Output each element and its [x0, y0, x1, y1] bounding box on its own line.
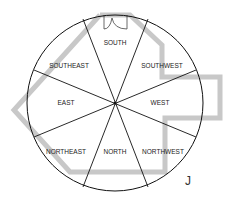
corner-mark: J — [185, 174, 191, 188]
label-northwest: NORTHWEST — [142, 148, 184, 155]
label-northeast: NORTHEAST — [46, 148, 86, 155]
label-east: EAST — [58, 99, 75, 106]
label-north: NORTH — [104, 148, 127, 155]
center-dot — [114, 102, 117, 105]
label-southwest: SOUTHWEST — [141, 62, 183, 69]
label-west: WEST — [151, 99, 170, 106]
compass-floorplan-diagram: SOUTH SOUTHWEST WEST NORTHWEST NORTH NOR… — [0, 0, 237, 202]
label-southeast: SOUTHEAST — [49, 62, 89, 69]
label-south: SOUTH — [104, 39, 127, 46]
